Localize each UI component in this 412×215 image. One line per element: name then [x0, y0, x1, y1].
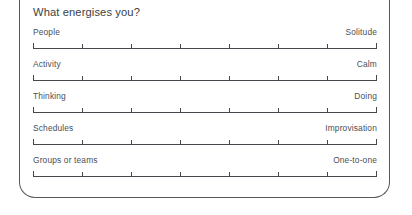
screen: What energises you? People Solitude Acti…	[0, 0, 412, 215]
scale-tick[interactable]	[33, 139, 34, 146]
scale-bar[interactable]	[33, 138, 377, 145]
scale-tick[interactable]	[131, 140, 132, 146]
scale-left-label: People	[33, 27, 60, 38]
card-inner: What energises you? People Solitude Acti…	[20, 0, 389, 197]
scale-tick[interactable]	[327, 76, 328, 82]
scale-row[interactable]: Groups or teams One-to-one	[33, 155, 377, 187]
scale-tick[interactable]	[278, 140, 279, 146]
scale-tick[interactable]	[82, 44, 83, 50]
scale-tick[interactable]	[376, 75, 377, 82]
scale-tick[interactable]	[327, 172, 328, 178]
scale-tick[interactable]	[131, 108, 132, 114]
scale-baseline	[33, 144, 377, 145]
scale-tick[interactable]	[82, 76, 83, 82]
scale-tick[interactable]	[376, 43, 377, 50]
scale-tick[interactable]	[278, 172, 279, 178]
scale-tick[interactable]	[229, 140, 230, 146]
scale-tick[interactable]	[180, 44, 181, 50]
scale-bar[interactable]	[33, 106, 377, 113]
scale-row[interactable]: Thinking Doing	[33, 91, 377, 123]
scale-tick[interactable]	[180, 172, 181, 178]
scale-row[interactable]: People Solitude	[33, 27, 377, 59]
questionnaire-card: What energises you? People Solitude Acti…	[19, 0, 390, 198]
scale-tick[interactable]	[278, 44, 279, 50]
scale-tick[interactable]	[327, 140, 328, 146]
scale-tick[interactable]	[229, 108, 230, 114]
scale-tick[interactable]	[278, 108, 279, 114]
scale-row-labels: Groups or teams One-to-one	[33, 155, 377, 169]
scale-right-label: One-to-one	[333, 155, 377, 166]
scale-left-label: Schedules	[33, 123, 73, 134]
scale-tick[interactable]	[327, 44, 328, 50]
scale-bar[interactable]	[33, 170, 377, 177]
scale-tick[interactable]	[33, 43, 34, 50]
scale-bar[interactable]	[33, 74, 377, 81]
scale-right-label: Solitude	[346, 27, 377, 38]
scale-tick[interactable]	[131, 76, 132, 82]
scale-tick[interactable]	[180, 108, 181, 114]
scale-tick[interactable]	[278, 76, 279, 82]
scale-tick[interactable]	[82, 172, 83, 178]
scale-baseline	[33, 48, 377, 49]
scale-row-labels: Activity Calm	[33, 59, 377, 73]
scale-tick[interactable]	[82, 140, 83, 146]
scale-tick[interactable]	[180, 140, 181, 146]
page-title: What energises you?	[33, 6, 140, 18]
scale-row[interactable]: Schedules Improvisation	[33, 123, 377, 155]
scale-tick[interactable]	[229, 44, 230, 50]
scale-tick[interactable]	[327, 108, 328, 114]
scale-tick[interactable]	[180, 76, 181, 82]
scale-row[interactable]: Activity Calm	[33, 59, 377, 91]
scale-tick[interactable]	[229, 76, 230, 82]
scale-tick[interactable]	[33, 171, 34, 178]
scale-right-label: Improvisation	[325, 123, 377, 134]
scale-row-labels: People Solitude	[33, 27, 377, 41]
scale-bar[interactable]	[33, 42, 377, 49]
scale-left-label: Groups or teams	[33, 155, 98, 166]
scale-right-label: Doing	[354, 91, 377, 102]
scale-row-labels: Thinking Doing	[33, 91, 377, 105]
scale-tick[interactable]	[131, 172, 132, 178]
scale-baseline	[33, 176, 377, 177]
scale-row-labels: Schedules Improvisation	[33, 123, 377, 137]
scale-baseline	[33, 80, 377, 81]
scale-tick[interactable]	[82, 108, 83, 114]
scale-tick[interactable]	[131, 44, 132, 50]
scale-tick[interactable]	[376, 107, 377, 114]
scale-right-label: Calm	[357, 59, 377, 70]
scale-rows-container: People Solitude Activity Calm	[33, 27, 377, 187]
scale-tick[interactable]	[376, 139, 377, 146]
scale-left-label: Activity	[33, 59, 61, 70]
scale-left-label: Thinking	[33, 91, 66, 102]
scale-tick[interactable]	[229, 172, 230, 178]
scale-tick[interactable]	[33, 107, 34, 114]
scale-tick[interactable]	[33, 75, 34, 82]
scale-tick[interactable]	[376, 171, 377, 178]
scale-baseline	[33, 112, 377, 113]
